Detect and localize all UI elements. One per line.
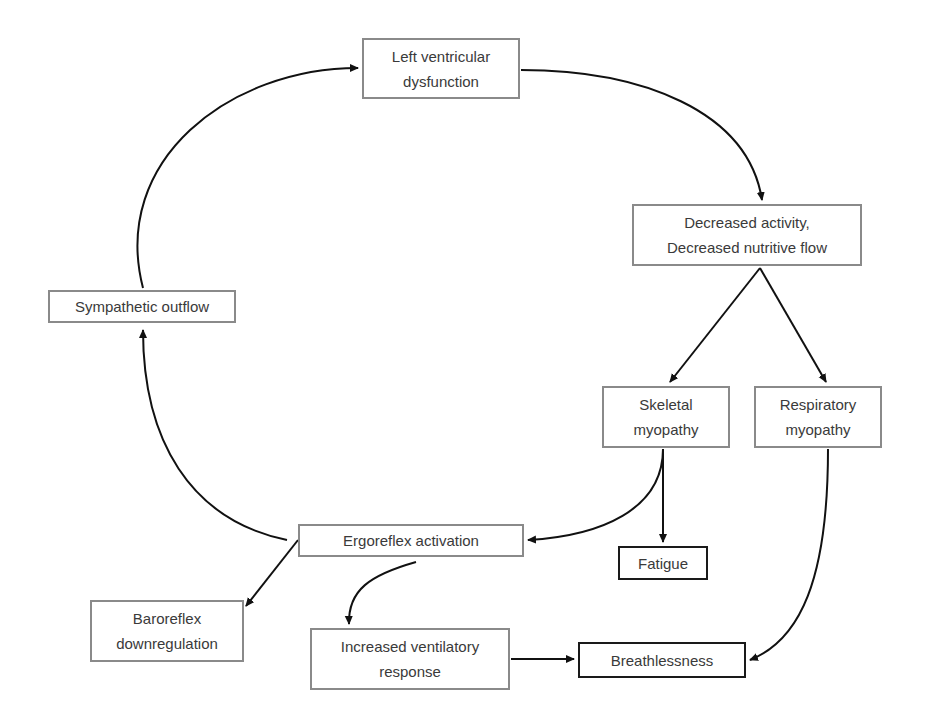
arrow-sym-to-lvd: [137, 68, 358, 288]
node-label: Ergoreflex activation: [343, 528, 479, 553]
node-label: Increased ventilatory response: [341, 634, 479, 684]
node-dec: Decreased activity, Decreased nutritive …: [632, 204, 862, 266]
node-breath: Breathlessness: [578, 642, 746, 678]
node-label: Skeletal myopathy: [633, 392, 698, 442]
node-label: Respiratory myopathy: [780, 392, 857, 442]
node-ergo: Ergoreflex activation: [298, 524, 524, 557]
arrow-ergo-to-sym: [143, 330, 287, 540]
node-baro: Baroreflex downregulation: [90, 600, 244, 662]
node-skel: Skeletal myopathy: [602, 386, 730, 448]
arrow-skel-to-ergo: [528, 449, 663, 540]
arrow-dec-to-skel: [670, 268, 760, 382]
node-sym: Sympathetic outflow: [48, 290, 236, 323]
node-resp: Respiratory myopathy: [754, 386, 882, 448]
node-label: Sympathetic outflow: [75, 294, 209, 319]
node-label: Baroreflex downregulation: [116, 606, 218, 656]
node-label: Breathlessness: [611, 648, 714, 673]
node-label: Decreased activity, Decreased nutritive …: [667, 210, 827, 260]
arrow-ergo-to-baro: [246, 540, 298, 606]
arrow-ergo-to-vent: [349, 562, 416, 624]
node-label: Left ventricular dysfunction: [392, 44, 490, 94]
arrow-resp-to-breath: [750, 449, 828, 660]
node-fat: Fatigue: [618, 546, 708, 580]
node-lvd: Left ventricular dysfunction: [362, 38, 520, 99]
arrow-dec-to-resp: [760, 268, 826, 382]
arrow-lvd-to-dec: [521, 70, 762, 200]
node-label: Fatigue: [638, 551, 688, 576]
node-vent: Increased ventilatory response: [310, 628, 510, 690]
